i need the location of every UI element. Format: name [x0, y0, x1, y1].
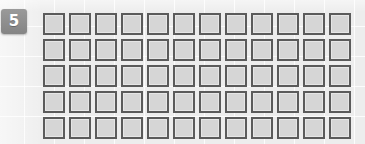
tile[interactable] [199, 13, 221, 35]
tile[interactable] [69, 13, 91, 35]
tile[interactable] [251, 13, 273, 35]
tile[interactable] [251, 39, 273, 61]
tile[interactable] [303, 65, 325, 87]
tile[interactable] [199, 39, 221, 61]
tile[interactable] [121, 117, 143, 139]
tile[interactable] [277, 13, 299, 35]
tile[interactable] [95, 117, 117, 139]
tile[interactable] [199, 91, 221, 113]
tile[interactable] [329, 39, 351, 61]
tile[interactable] [69, 117, 91, 139]
tile[interactable] [147, 91, 169, 113]
tile[interactable] [173, 13, 195, 35]
game-board-screen: 5 [0, 0, 365, 144]
tile[interactable] [69, 65, 91, 87]
tile[interactable] [69, 91, 91, 113]
tile[interactable] [277, 39, 299, 61]
tile[interactable] [277, 65, 299, 87]
tile[interactable] [225, 117, 247, 139]
tile[interactable] [173, 65, 195, 87]
tile[interactable] [277, 91, 299, 113]
tile[interactable] [121, 91, 143, 113]
tile[interactable] [329, 13, 351, 35]
tile[interactable] [43, 91, 65, 113]
tile[interactable] [43, 13, 65, 35]
tile[interactable] [95, 13, 117, 35]
tile[interactable] [147, 117, 169, 139]
tile[interactable] [43, 39, 65, 61]
tile[interactable] [251, 65, 273, 87]
tile[interactable] [121, 65, 143, 87]
tile[interactable] [303, 117, 325, 139]
tile[interactable] [95, 91, 117, 113]
tile[interactable] [225, 13, 247, 35]
tile[interactable] [329, 91, 351, 113]
tile[interactable] [173, 117, 195, 139]
tile[interactable] [147, 39, 169, 61]
tile[interactable] [43, 117, 65, 139]
tile[interactable] [173, 39, 195, 61]
tile[interactable] [329, 65, 351, 87]
tile[interactable] [199, 117, 221, 139]
tile[interactable] [95, 39, 117, 61]
tile[interactable] [225, 91, 247, 113]
tile[interactable] [121, 39, 143, 61]
tile-grid[interactable] [43, 13, 351, 139]
tile[interactable] [225, 65, 247, 87]
tile[interactable] [277, 117, 299, 139]
tile[interactable] [303, 39, 325, 61]
tile[interactable] [303, 91, 325, 113]
tile[interactable] [95, 65, 117, 87]
tile[interactable] [43, 65, 65, 87]
tile[interactable] [329, 117, 351, 139]
tile[interactable] [121, 13, 143, 35]
tile[interactable] [199, 65, 221, 87]
tile[interactable] [225, 39, 247, 61]
tile[interactable] [251, 117, 273, 139]
tile[interactable] [147, 13, 169, 35]
tile[interactable] [251, 91, 273, 113]
tile[interactable] [173, 91, 195, 113]
tile[interactable] [303, 13, 325, 35]
level-badge-label: 5 [9, 14, 19, 29]
tile[interactable] [147, 65, 169, 87]
level-badge[interactable]: 5 [1, 9, 27, 34]
tile[interactable] [69, 39, 91, 61]
